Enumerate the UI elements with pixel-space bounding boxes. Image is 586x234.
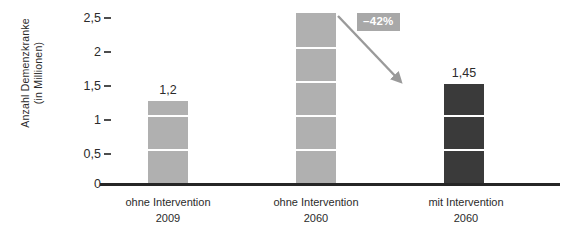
bar-mit-intervention-2060 <box>444 84 484 183</box>
x-axis-category-label-3: mit Intervention 2060 <box>406 194 526 226</box>
delta-badge: –42% <box>357 13 400 31</box>
bar-segment-separator <box>296 81 336 83</box>
bar-segment-separator <box>148 149 188 151</box>
category-name: mit Intervention <box>428 196 503 208</box>
y-tick-label-0: 0 <box>55 178 101 190</box>
x-axis-line <box>100 183 560 186</box>
category-name: ohne Intervention <box>273 196 358 208</box>
bar-segment-separator <box>296 47 336 49</box>
y-tick-mark-2 <box>104 51 111 53</box>
y-axis-title-line2: (in Millionen) <box>32 0 45 153</box>
bar-value-label-mit-intervention-2060: 1,45 <box>434 67 494 80</box>
category-year: 2060 <box>406 210 526 226</box>
bar-value-label-2009: 1,2 <box>138 84 198 97</box>
y-tick-label-2-5: 2,5 <box>55 12 101 24</box>
bar-segment-separator <box>296 149 336 151</box>
chart-figure: Anzahl Demenzkranke (in Millionen) 2,5 2… <box>0 0 586 234</box>
bar-ohne-intervention-2009 <box>148 101 188 183</box>
y-tick-mark-2-5 <box>104 17 111 19</box>
x-axis-category-label-2: ohne Intervention 2060 <box>256 194 376 226</box>
y-axis-title: Anzahl Demenzkranke (in Millionen) <box>19 0 53 153</box>
bar-segment-separator <box>148 115 188 117</box>
bar-segment-separator <box>444 149 484 151</box>
y-tick-label-1: 1 <box>55 114 101 126</box>
category-name: ohne Intervention <box>125 196 210 208</box>
y-tick-mark-0-5 <box>104 153 111 155</box>
category-year: 2060 <box>256 210 376 226</box>
bar-segment-separator <box>444 115 484 117</box>
y-tick-mark-1 <box>104 119 111 121</box>
y-tick-label-2: 2 <box>55 46 101 58</box>
y-tick-mark-1-5 <box>104 85 111 87</box>
bar-segment-separator <box>296 115 336 117</box>
category-year: 2009 <box>108 210 228 226</box>
y-axis-tick-labels: 2,5 2 1,5 1 0,5 0 <box>55 0 101 234</box>
y-tick-label-1-5: 1,5 <box>55 80 101 92</box>
x-axis-category-label-1: ohne Intervention 2009 <box>108 194 228 226</box>
y-axis-title-line1: Anzahl Demenzkranke <box>19 0 32 153</box>
bar-ohne-intervention-2060 <box>296 13 336 183</box>
y-tick-label-0-5: 0,5 <box>55 148 101 160</box>
